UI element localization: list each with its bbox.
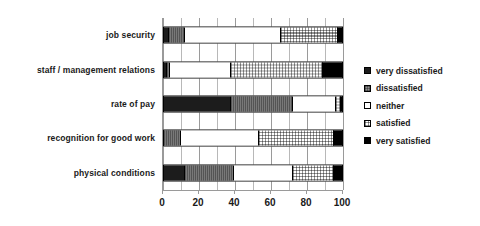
legend-label: dissatisfied bbox=[376, 83, 423, 93]
stacked-bar[interactable] bbox=[163, 130, 343, 147]
bar-segment-dissatisfied[interactable] bbox=[184, 165, 234, 180]
bar-segment-neither[interactable] bbox=[233, 165, 292, 180]
category-label: recognition for good work bbox=[47, 133, 155, 143]
bar-segment-very-satisfied[interactable] bbox=[337, 28, 342, 43]
bar-segment-dissatisfied[interactable] bbox=[168, 28, 184, 43]
gridline bbox=[343, 18, 344, 190]
legend-item[interactable]: satisfied bbox=[364, 115, 476, 133]
stacked-bar[interactable] bbox=[163, 95, 343, 112]
category-label: rate of pay bbox=[111, 99, 155, 109]
legend-item[interactable]: very satisfied bbox=[364, 132, 476, 150]
bar-segment-very-satisfied[interactable] bbox=[340, 96, 342, 111]
stacked-bar[interactable] bbox=[163, 61, 343, 78]
x-axis-tick-label: 100 bbox=[334, 197, 351, 208]
x-axis-tick bbox=[198, 190, 199, 194]
bar-segment-very-satisfied[interactable] bbox=[333, 131, 342, 146]
legend-label: very satisfied bbox=[376, 136, 430, 146]
bar-segment-very-satisfied[interactable] bbox=[322, 62, 342, 77]
legend-swatch-dissatisfied bbox=[364, 85, 371, 92]
category-label: staff / management relations bbox=[37, 65, 155, 75]
legend-item[interactable]: very dissatisfied bbox=[364, 62, 476, 80]
bar-segment-satisfied[interactable] bbox=[280, 28, 337, 43]
bar-row: job security bbox=[163, 18, 343, 52]
legend: very dissatisfieddissatisfiedneithersati… bbox=[364, 62, 476, 150]
legend-item[interactable]: neither bbox=[364, 97, 476, 115]
stacked-bar-chart: job securitystaff / management relations… bbox=[0, 0, 480, 226]
bar-row: rate of pay bbox=[163, 87, 343, 121]
plot-area: job securitystaff / management relations… bbox=[162, 18, 344, 190]
bar-row: recognition for good work bbox=[163, 121, 343, 155]
x-axis-tick-label: 0 bbox=[159, 197, 165, 208]
x-axis-tick bbox=[270, 190, 271, 194]
legend-item[interactable]: dissatisfied bbox=[364, 80, 476, 98]
legend-swatch-very-dissatisfied bbox=[364, 67, 371, 74]
bar-segment-neither[interactable] bbox=[292, 96, 335, 111]
bar-row: physical conditions bbox=[163, 156, 343, 190]
x-axis bbox=[162, 190, 342, 191]
x-axis-tick-label: 40 bbox=[228, 197, 239, 208]
legend-label: very dissatisfied bbox=[376, 66, 443, 76]
stacked-bar[interactable] bbox=[163, 27, 343, 44]
legend-swatch-satisfied bbox=[364, 120, 371, 127]
bar-segment-dissatisfied[interactable] bbox=[230, 96, 292, 111]
bar-segment-neither[interactable] bbox=[169, 62, 230, 77]
x-axis-tick bbox=[306, 190, 307, 194]
x-axis-tick-label: 20 bbox=[192, 197, 203, 208]
bar-segment-satisfied[interactable] bbox=[230, 62, 323, 77]
x-axis-tick bbox=[162, 190, 163, 194]
bar-segment-neither[interactable] bbox=[180, 131, 258, 146]
stacked-bar[interactable] bbox=[163, 164, 343, 181]
legend-label: satisfied bbox=[376, 118, 411, 128]
legend-label: neither bbox=[376, 101, 404, 111]
category-label: physical conditions bbox=[74, 168, 155, 178]
bar-segment-satisfied[interactable] bbox=[258, 131, 333, 146]
bar-segment-dissatisfied[interactable] bbox=[164, 131, 180, 146]
x-axis-tick bbox=[342, 190, 343, 194]
x-axis-tick-labels: 020406080100 bbox=[162, 197, 342, 213]
legend-swatch-neither bbox=[364, 102, 371, 109]
bar-row: staff / management relations bbox=[163, 52, 343, 86]
bar-segment-very-dissatisfied[interactable] bbox=[164, 165, 184, 180]
bar-rows: job securitystaff / management relations… bbox=[163, 18, 343, 190]
bar-segment-very-satisfied[interactable] bbox=[333, 165, 342, 180]
x-axis-tick bbox=[234, 190, 235, 194]
category-label: job security bbox=[106, 30, 155, 40]
x-axis-tick-label: 80 bbox=[300, 197, 311, 208]
bar-segment-very-dissatisfied[interactable] bbox=[164, 96, 230, 111]
x-axis-tick-label: 60 bbox=[264, 197, 275, 208]
bar-segment-neither[interactable] bbox=[184, 28, 280, 43]
bar-segment-satisfied[interactable] bbox=[292, 165, 333, 180]
legend-swatch-very-satisfied bbox=[364, 137, 371, 144]
